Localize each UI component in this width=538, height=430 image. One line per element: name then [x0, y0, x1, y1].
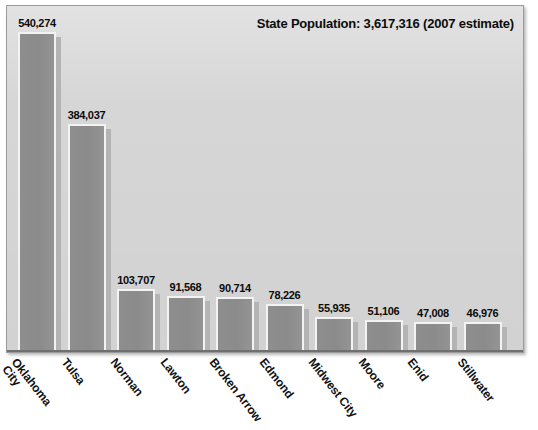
bar-group[interactable]: 90,714: [216, 271, 254, 350]
category-label: Lawton: [158, 356, 193, 396]
bar-value-label: 103,707: [117, 274, 155, 286]
category-axis-labels: Oklahoma CityTulsaNormanLawtonBroken Arr…: [6, 356, 524, 430]
category-label: Oklahoma City: [0, 356, 54, 415]
bar-group[interactable]: 78,226: [266, 278, 304, 350]
bar-value-label: 51,106: [368, 305, 400, 317]
bar[interactable]: [68, 124, 106, 350]
bar[interactable]: [315, 317, 353, 350]
bar-value-label: 91,568: [170, 281, 202, 293]
bar-group[interactable]: 47,008: [414, 296, 452, 350]
bar-group[interactable]: 55,935: [315, 291, 353, 350]
bar[interactable]: [216, 297, 254, 350]
bar-value-label: 90,714: [219, 282, 251, 294]
bar-value-label: 47,008: [417, 307, 449, 319]
bar-group[interactable]: 384,037: [68, 98, 106, 350]
bar-group[interactable]: 103,707: [117, 263, 155, 350]
population-bar-chart: State Population: 3,617,316 (2007 estima…: [0, 0, 538, 430]
bar[interactable]: [464, 322, 502, 350]
bar-group[interactable]: 51,106: [365, 294, 403, 350]
category-label: Enid: [406, 356, 431, 383]
bar-group[interactable]: 91,568: [167, 270, 205, 350]
bar-group[interactable]: 540,274: [18, 6, 56, 350]
bar-value-label: 78,226: [269, 289, 301, 301]
bar-value-label: 384,037: [68, 109, 106, 121]
category-label: Moore: [356, 356, 387, 391]
category-label: Stillwater: [455, 356, 496, 404]
bar[interactable]: [18, 32, 56, 350]
category-label: Broken Arrow: [208, 356, 265, 424]
bar[interactable]: [365, 320, 403, 350]
x-axis-baseline: [7, 350, 523, 352]
category-label: Tulsa: [59, 356, 87, 387]
category-label: Midwest City: [307, 356, 360, 419]
category-label: Edmond: [257, 356, 295, 400]
bar[interactable]: [266, 304, 304, 350]
bar-value-label: 540,274: [18, 17, 56, 29]
bar-value-label: 46,976: [467, 307, 499, 319]
bar-group[interactable]: 46,976: [464, 296, 502, 350]
bars-area: 540,274384,037103,70791,56890,71478,2265…: [7, 6, 523, 350]
category-label: Norman: [109, 356, 146, 398]
bar[interactable]: [117, 289, 155, 350]
bar[interactable]: [414, 322, 452, 350]
bar[interactable]: [167, 296, 205, 350]
chart-plot-frame: State Population: 3,617,316 (2007 estima…: [6, 5, 524, 353]
bar-value-label: 55,935: [318, 302, 350, 314]
